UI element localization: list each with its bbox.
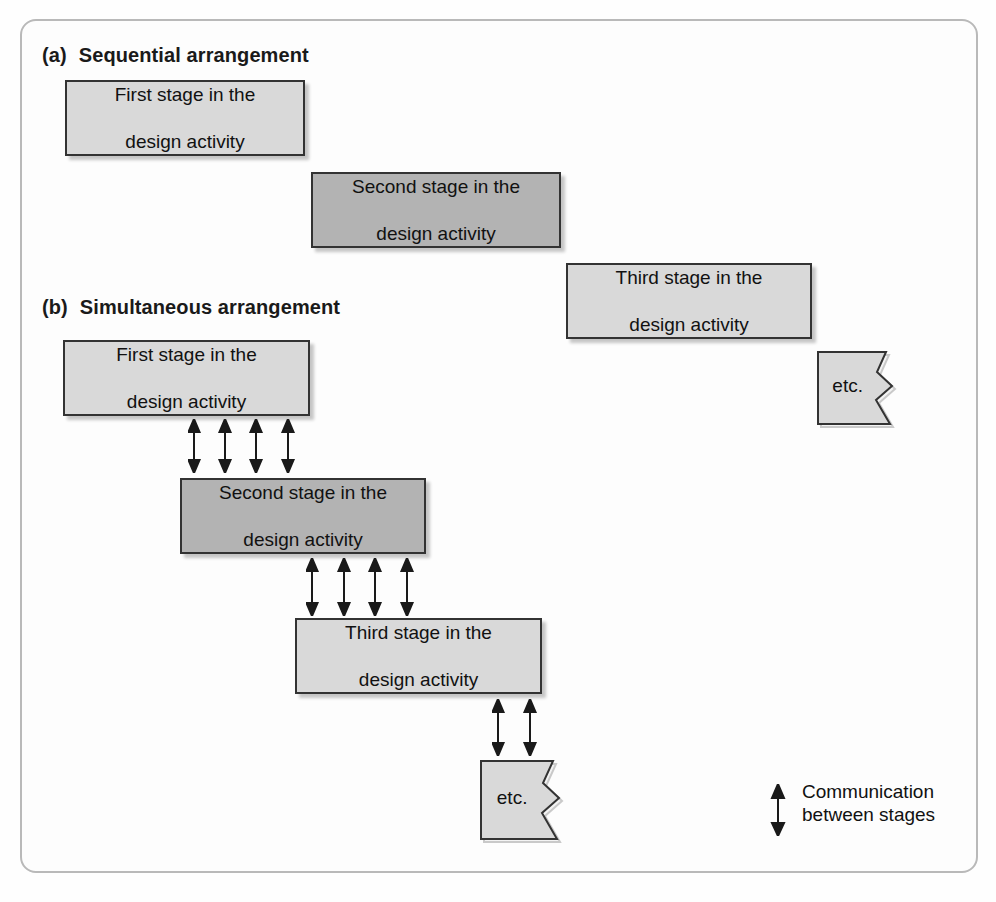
etc-shape-a-label: etc. bbox=[816, 350, 879, 422]
double-headed-vertical-arrow-icon bbox=[768, 784, 788, 840]
stage-box-b-first: First stage in thedesign activity bbox=[63, 340, 310, 416]
stage-box-a-first-text: First stage in thedesign activity bbox=[103, 83, 267, 153]
section-b-tag: (b) bbox=[42, 296, 68, 318]
stage-box-a-second-line2: design activity bbox=[346, 222, 526, 245]
section-b-title: Simultaneous arrangement bbox=[80, 296, 340, 318]
stage-box-b-third-text: Third stage in thedesign activity bbox=[333, 621, 504, 691]
figure-canvas: (a)Sequential arrangement First stage in… bbox=[0, 0, 996, 902]
stage-box-a-third: Third stage in thedesign activity bbox=[566, 263, 812, 339]
arrow-group-b-2 bbox=[306, 558, 424, 616]
stage-box-b-first-line1: First stage in the bbox=[110, 343, 262, 366]
arrow-group-b-3 bbox=[492, 699, 540, 756]
stage-box-a-first-line2: design activity bbox=[109, 130, 261, 153]
stage-box-a-third-line1: Third stage in the bbox=[610, 266, 769, 289]
section-a-title: Sequential arrangement bbox=[79, 44, 309, 66]
stage-box-b-third-line1: Third stage in the bbox=[339, 621, 498, 644]
legend-line2: between stages bbox=[802, 804, 935, 825]
section-b-heading: (b)Simultaneous arrangement bbox=[42, 296, 340, 319]
stage-box-a-first: First stage in thedesign activity bbox=[65, 80, 305, 156]
stage-box-b-second-line2: design activity bbox=[213, 528, 393, 551]
etc-shape-a: etc. bbox=[816, 350, 904, 422]
stage-box-b-second: Second stage in thedesign activity bbox=[180, 478, 426, 554]
stage-box-b-third: Third stage in thedesign activity bbox=[295, 618, 542, 694]
stage-box-a-second-line1: Second stage in the bbox=[346, 175, 526, 198]
stage-box-b-second-line1: Second stage in the bbox=[213, 481, 393, 504]
stage-box-a-third-line2: design activity bbox=[610, 313, 769, 336]
stage-box-b-first-text: First stage in thedesign activity bbox=[104, 343, 268, 413]
legend-text: Communication between stages bbox=[802, 780, 935, 826]
stage-box-b-first-line2: design activity bbox=[110, 390, 262, 413]
stage-box-b-third-line2: design activity bbox=[339, 668, 498, 691]
stage-box-a-second-text: Second stage in thedesign activity bbox=[340, 175, 532, 245]
stage-box-a-second: Second stage in thedesign activity bbox=[311, 172, 561, 248]
arrow-group-b-1 bbox=[188, 419, 306, 473]
section-a-tag: (a) bbox=[42, 44, 67, 66]
etc-shape-b-label: etc. bbox=[479, 759, 545, 837]
stage-box-a-first-line1: First stage in the bbox=[109, 83, 261, 106]
etc-shape-b: etc. bbox=[479, 759, 571, 837]
stage-box-a-third-text: Third stage in thedesign activity bbox=[604, 266, 775, 336]
legend-line1: Communication bbox=[802, 781, 934, 802]
stage-box-b-second-text: Second stage in thedesign activity bbox=[207, 481, 399, 551]
section-a-heading: (a)Sequential arrangement bbox=[42, 44, 309, 67]
